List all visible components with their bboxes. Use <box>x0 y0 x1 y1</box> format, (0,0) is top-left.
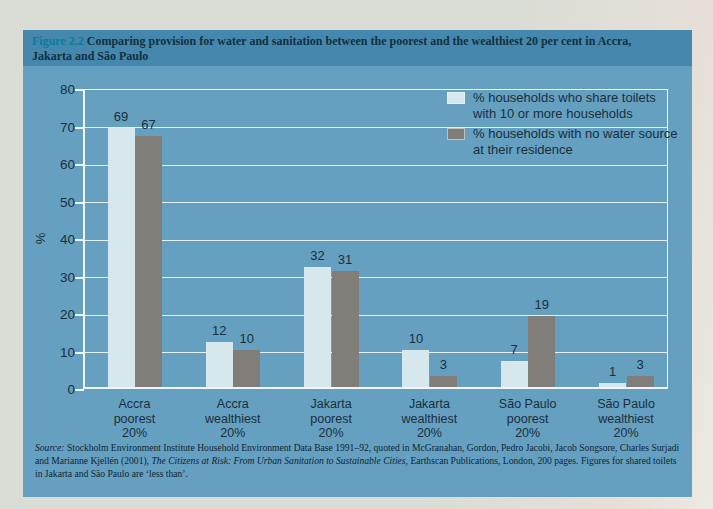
y-tick-label: 80 <box>39 82 75 98</box>
bar <box>135 136 162 387</box>
y-tick-label: 10 <box>39 345 75 361</box>
legend-item: % households who share toiletswith 10 or… <box>447 90 678 121</box>
bar <box>627 376 654 387</box>
x-category-label: Accrapoorest20% <box>86 397 184 441</box>
legend-item: % households with no water sourceat thei… <box>447 126 678 157</box>
x-category-line: São Paulo <box>479 397 577 412</box>
y-tick-label: 60 <box>39 157 75 173</box>
source-text-segment: Source: <box>35 442 64 453</box>
figure-title: Comparing provision for water and sanita… <box>32 34 631 63</box>
x-category-line: 20% <box>282 426 380 441</box>
y-tick <box>75 164 84 166</box>
y-tick-label: 50 <box>39 195 75 211</box>
legend-swatch <box>447 92 465 104</box>
x-category-label: Accrawealthiest20% <box>184 397 282 441</box>
x-category-line: Jakarta <box>380 397 478 412</box>
y-tick <box>75 127 84 129</box>
bar <box>599 383 626 387</box>
x-category-label: São Paulowealthiest20% <box>577 397 675 441</box>
bar-value-label: 67 <box>127 117 171 132</box>
gridline <box>85 315 667 316</box>
x-category-line: 20% <box>184 426 282 441</box>
gridline <box>85 165 667 166</box>
x-category-line: 20% <box>380 426 478 441</box>
figure-number: Figure 2.2 <box>32 34 84 48</box>
bar-value-label: 3 <box>618 357 662 372</box>
x-category-line: 20% <box>479 426 577 441</box>
legend-label-line: at their residence <box>473 142 678 158</box>
bar-value-label: 31 <box>323 252 367 267</box>
figure-header: Figure 2.2 Comparing provision for water… <box>23 30 692 66</box>
x-category-line: wealthiest <box>380 412 478 427</box>
legend-label-line: % households with no water source <box>473 126 678 142</box>
y-tick <box>75 89 84 91</box>
y-tick <box>75 389 84 391</box>
x-category-line: wealthiest <box>184 412 282 427</box>
x-category-line: wealthiest <box>577 412 675 427</box>
gridline <box>85 277 667 278</box>
bar <box>528 316 555 387</box>
y-tick <box>75 239 84 241</box>
gridline <box>85 202 667 203</box>
legend-label-line: % households who share toilets <box>473 90 656 106</box>
y-tick <box>75 352 84 354</box>
bar-value-label: 19 <box>520 297 564 312</box>
x-category-label: Jakartapoorest20% <box>282 397 380 441</box>
chart-legend: % households who share toiletswith 10 or… <box>447 90 678 162</box>
y-tick <box>75 202 84 204</box>
y-tick-label: 40 <box>39 232 75 248</box>
bar <box>304 267 331 387</box>
bar-value-label: 3 <box>421 357 465 372</box>
legend-label: % households with no water sourceat thei… <box>473 126 678 157</box>
y-tick <box>75 314 84 316</box>
legend-swatch <box>447 128 465 140</box>
bar <box>332 271 359 387</box>
bar-value-label: 10 <box>225 331 269 346</box>
bar <box>501 361 528 387</box>
legend-label: % households who share toiletswith 10 or… <box>473 90 656 121</box>
figure-box: Figure 2.2 Comparing provision for water… <box>23 30 692 497</box>
x-category-line: poorest <box>479 412 577 427</box>
bar <box>430 376 457 387</box>
y-tick-label: 70 <box>39 120 75 136</box>
x-category-line: Accra <box>184 397 282 412</box>
gridline <box>85 240 667 241</box>
y-tick-label: 30 <box>39 270 75 286</box>
bar <box>233 350 260 388</box>
source-note: Source: Stockholm Environment Institute … <box>35 441 686 480</box>
x-category-line: poorest <box>86 412 184 427</box>
x-category-label: Jakartawealthiest20% <box>380 397 478 441</box>
x-category-line: poorest <box>282 412 380 427</box>
bar <box>206 342 233 387</box>
page-background: Figure 2.2 Comparing provision for water… <box>0 0 713 509</box>
gridline <box>85 352 667 353</box>
source-text-segment: The Citizens at Risk: From Urban Sanitat… <box>151 455 405 466</box>
y-tick-label: 20 <box>39 307 75 323</box>
bar-value-label: 10 <box>394 331 438 346</box>
x-category-line: 20% <box>86 426 184 441</box>
x-category-label: São Paulopoorest20% <box>479 397 577 441</box>
legend-label-line: with 10 or more households <box>473 106 656 122</box>
x-category-line: São Paulo <box>577 397 675 412</box>
x-category-line: Accra <box>86 397 184 412</box>
bar <box>108 128 135 387</box>
x-category-line: 20% <box>577 426 675 441</box>
x-category-line: Jakarta <box>282 397 380 412</box>
y-tick <box>75 277 84 279</box>
y-tick-label: 0 <box>39 382 75 398</box>
